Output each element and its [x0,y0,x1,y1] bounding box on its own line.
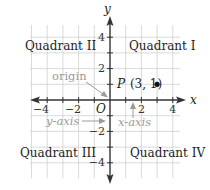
x-axis [30,97,186,104]
x-axis-label: x [190,93,197,107]
y-axis-label: y [103,2,111,16]
point-p-label: P (3, 1) [116,77,162,91]
quadrant-1-label: Quadrant I [129,39,196,53]
y-axis-annotation: y-axis [45,114,79,128]
origin-arrowhead-icon [101,91,109,98]
x-tick-label: 4 [169,103,176,116]
quadrant-2-label: Quadrant II [25,39,96,53]
y-tick-label: −4 [89,156,105,169]
origin-label: O [96,102,106,116]
y-tick-label: 2 [98,62,105,75]
x-axis-arrowhead-icon [130,102,136,109]
quadrant-4-label: Quadrant IV [130,146,205,160]
x-axis-annotation: x-axis [118,115,151,129]
coordinate-plane-diagram: y x O Quadrant II Quadrant I Quadrant II… [0,0,210,190]
point-coords: (3, 1) [130,77,162,91]
y-tick-label: 4 [98,31,105,44]
svg-text:P (3, 1): P (3, 1) [116,77,162,91]
quadrant-3-label: Quadrant III [20,146,96,160]
origin-annotation: origin [52,69,87,83]
y-tick-label: −2 [89,125,105,138]
y-axis-arrowhead-icon [99,118,106,124]
point-name: P [116,77,126,91]
coordinate-plane-svg: y x O Quadrant II Quadrant I Quadrant II… [0,0,210,190]
